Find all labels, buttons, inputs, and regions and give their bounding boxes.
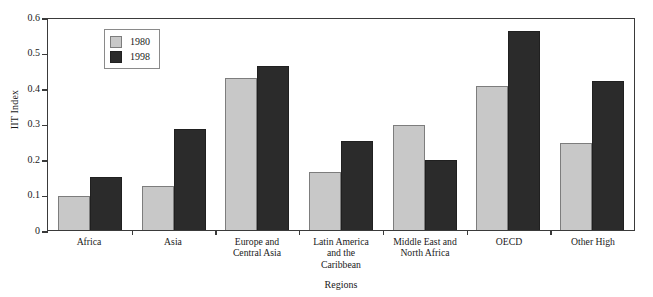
x-tick-mark bbox=[215, 230, 216, 235]
bar-group bbox=[215, 19, 299, 230]
bar-1998 bbox=[508, 31, 540, 231]
x-category-label: Asia bbox=[131, 236, 215, 270]
bar-1998 bbox=[174, 129, 206, 230]
bar-1980 bbox=[476, 86, 508, 230]
legend-swatch-1998-icon bbox=[110, 51, 122, 63]
x-category-label-line: Other High bbox=[551, 236, 635, 247]
legend-entry-1980: 1980 bbox=[110, 34, 150, 49]
y-tick-label: 0.1 bbox=[14, 189, 40, 200]
x-category-label-line: Central Asia bbox=[215, 247, 299, 258]
x-tick-mark bbox=[132, 230, 133, 235]
y-axis-title: IIT Index bbox=[9, 70, 20, 150]
x-category-label-line: North Africa bbox=[383, 247, 467, 258]
bar-1998 bbox=[341, 141, 373, 230]
y-tick-label: 0.3 bbox=[14, 118, 40, 129]
bar-1980 bbox=[142, 186, 174, 230]
x-category-label: Europe andCentral Asia bbox=[215, 236, 299, 270]
bar-1998 bbox=[425, 160, 457, 230]
bar-1998 bbox=[592, 81, 624, 230]
bar-group bbox=[299, 19, 383, 230]
iit-index-bar-chart: IIT Index 00.10.20.30.40.50.6 AfricaAsia… bbox=[0, 0, 653, 297]
bar-group bbox=[550, 19, 634, 230]
x-category-label: Africa bbox=[47, 236, 131, 270]
x-category-label-line: Middle East and bbox=[383, 236, 467, 247]
x-category-label-line: Caribbean bbox=[299, 259, 383, 270]
x-category-label: Middle East andNorth Africa bbox=[383, 236, 467, 270]
y-tick-mark bbox=[42, 231, 48, 232]
y-tick-label: 0.4 bbox=[14, 83, 40, 94]
x-tick-mark bbox=[299, 230, 300, 235]
bar-1998 bbox=[257, 66, 289, 230]
y-tick-label: 0.5 bbox=[14, 47, 40, 58]
bar-1980 bbox=[560, 143, 592, 230]
x-category-label-line: Africa bbox=[47, 236, 131, 247]
x-axis-category-labels: AfricaAsiaEurope andCentral AsiaLatin Am… bbox=[47, 236, 635, 270]
x-category-label-line: Latin America bbox=[299, 236, 383, 247]
x-axis-title: Regions bbox=[47, 279, 635, 290]
bar-1980 bbox=[225, 78, 257, 230]
legend-label-1998: 1998 bbox=[130, 51, 150, 62]
x-category-label-line: Europe and bbox=[215, 236, 299, 247]
y-tick-label: 0.6 bbox=[14, 12, 40, 23]
bar-group bbox=[467, 19, 551, 230]
x-category-label-line: and the bbox=[299, 247, 383, 258]
x-tick-mark bbox=[383, 230, 384, 235]
x-tick-mark bbox=[467, 230, 468, 235]
bar-1980 bbox=[393, 125, 425, 230]
chart-legend: 1980 1998 bbox=[104, 29, 160, 69]
bar-group bbox=[383, 19, 467, 230]
legend-label-1980: 1980 bbox=[130, 36, 150, 47]
bar-1980 bbox=[58, 196, 90, 230]
bar-1980 bbox=[309, 172, 341, 230]
x-category-label: OECD bbox=[467, 236, 551, 270]
x-category-label-line: OECD bbox=[467, 236, 551, 247]
x-category-label: Other High bbox=[551, 236, 635, 270]
x-category-label: Latin Americaand theCaribbean bbox=[299, 236, 383, 270]
x-tick-mark bbox=[550, 230, 551, 235]
y-tick-label: 0.2 bbox=[14, 154, 40, 165]
x-category-label-line: Asia bbox=[131, 236, 215, 247]
legend-swatch-1980-icon bbox=[110, 36, 122, 48]
y-tick-label: 0 bbox=[14, 225, 40, 236]
bar-1998 bbox=[90, 177, 122, 230]
legend-entry-1998: 1998 bbox=[110, 49, 150, 64]
